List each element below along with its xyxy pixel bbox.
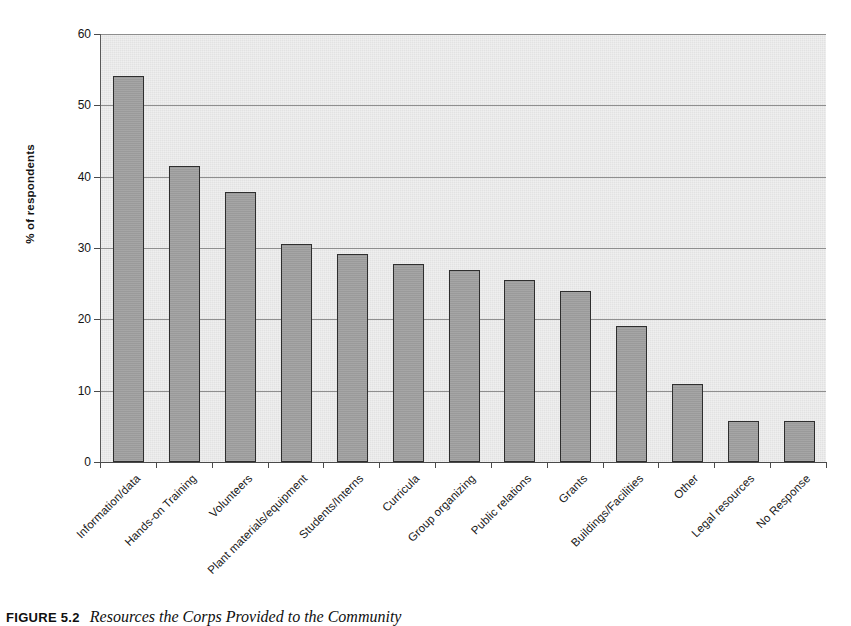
y-tick-label-0: 0 bbox=[57, 455, 91, 469]
y-tick-label-10: 10 bbox=[57, 384, 91, 398]
y-tick-mark-40 bbox=[94, 177, 100, 178]
x-axis-label: Other bbox=[672, 472, 701, 501]
x-axis-label: Public relations bbox=[469, 472, 534, 537]
bar-grain-overlay bbox=[729, 422, 758, 461]
figure-number: FIGURE 5.2 bbox=[6, 610, 80, 625]
bar bbox=[616, 326, 647, 462]
bar-grain-overlay bbox=[561, 292, 590, 461]
y-tick-label-30: 30 bbox=[57, 241, 91, 255]
bar bbox=[169, 166, 200, 462]
x-tick-mark bbox=[491, 462, 492, 468]
x-tick-mark bbox=[714, 462, 715, 468]
bar bbox=[281, 244, 312, 462]
gridline-30 bbox=[101, 248, 826, 249]
x-tick-mark bbox=[658, 462, 659, 468]
bar-grain-overlay bbox=[338, 255, 367, 461]
bar-grain-overlay bbox=[226, 193, 255, 461]
bar bbox=[672, 384, 703, 462]
x-tick-mark bbox=[435, 462, 436, 468]
bar-grain-overlay bbox=[673, 385, 702, 461]
figure-container: % of respondents 0102030405060 Informati… bbox=[0, 0, 851, 626]
y-tick-label-60: 60 bbox=[57, 27, 91, 41]
bar-grain-overlay bbox=[617, 327, 646, 461]
y-axis-title: % of respondents bbox=[24, 114, 36, 274]
x-axis-label: Volunteers bbox=[206, 472, 254, 520]
x-tick-mark bbox=[547, 462, 548, 468]
x-axis-label: Plant materials/equipment bbox=[206, 472, 310, 576]
x-axis-label: No Response bbox=[754, 472, 813, 531]
bar-grain-overlay bbox=[450, 271, 479, 461]
y-tick-label-20: 20 bbox=[57, 312, 91, 326]
y-tick-label-50: 50 bbox=[57, 98, 91, 112]
bar bbox=[337, 254, 368, 462]
y-tick-label-40: 40 bbox=[57, 170, 91, 184]
gridline-0 bbox=[101, 462, 826, 463]
x-tick-mark bbox=[212, 462, 213, 468]
bar bbox=[728, 421, 759, 462]
x-tick-mark bbox=[323, 462, 324, 468]
x-tick-mark bbox=[603, 462, 604, 468]
gridline-60 bbox=[101, 34, 826, 35]
bar bbox=[784, 421, 815, 462]
figure-caption-text: Resources the Corps Provided to the Comm… bbox=[80, 608, 402, 625]
x-tick-mark bbox=[379, 462, 380, 468]
bar-grain-overlay bbox=[785, 422, 814, 461]
bar-grain-overlay bbox=[394, 265, 423, 461]
bar-grain-overlay bbox=[170, 167, 199, 461]
bar bbox=[504, 280, 535, 462]
bar-grain-overlay bbox=[505, 281, 534, 461]
x-axis-label: Curricula bbox=[380, 472, 422, 514]
x-tick-mark bbox=[100, 462, 101, 468]
y-tick-mark-60 bbox=[94, 34, 100, 35]
bar bbox=[393, 264, 424, 462]
y-tick-mark-20 bbox=[94, 319, 100, 320]
bar bbox=[113, 76, 144, 462]
y-tick-mark-10 bbox=[94, 391, 100, 392]
bar bbox=[225, 192, 256, 462]
gridline-50 bbox=[101, 105, 826, 106]
plot-area bbox=[100, 34, 826, 462]
x-axis-label: Legal resources bbox=[689, 472, 756, 539]
bar-grain-overlay bbox=[114, 77, 143, 461]
x-tick-mark bbox=[770, 462, 771, 468]
x-tick-mark bbox=[268, 462, 269, 468]
y-tick-mark-50 bbox=[94, 105, 100, 106]
x-tick-mark bbox=[156, 462, 157, 468]
x-tick-mark bbox=[826, 462, 827, 468]
x-axis-label: Grants bbox=[556, 472, 589, 505]
y-tick-mark-30 bbox=[94, 248, 100, 249]
bar bbox=[560, 291, 591, 462]
figure-caption: FIGURE 5.2Resources the Corps Provided t… bbox=[6, 608, 846, 626]
gridline-40 bbox=[101, 177, 826, 178]
bar-grain-overlay bbox=[282, 245, 311, 461]
bar bbox=[449, 270, 480, 462]
